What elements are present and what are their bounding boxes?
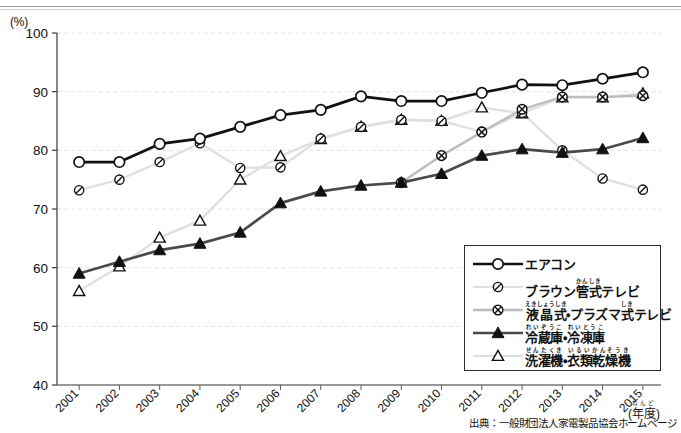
source-note: 出典：一般財団法人家電製品協会ホームページ [469,415,677,430]
x-axis-tick-label: 2007 [294,386,323,415]
x-axis-tick-label: 2006 [254,386,283,415]
legend-marker-open-circle-icon [471,255,525,273]
legend-item[interactable]: 冷蔵庫れいぞうこ・冷凍庫れいとうこ [465,321,660,344]
legend-label: ブラウン管式かんしきテレビ [525,278,639,298]
legend-marker-circle-slash-icon [471,278,525,296]
chart-page: (%) 100908070605040 20012002200320042005… [0,0,681,433]
legend-item[interactable]: 洗濯機せんたくき・衣類乾燥機いるいかんそうき [465,344,660,367]
x-axis-tick-label: 2002 [93,386,122,415]
x-axis-tick-label: 2010 [415,386,444,415]
x-axis-tick-label: 2012 [495,386,524,415]
legend-label: 液晶式えきしょうしき・プラズマ式しきテレビ [525,301,672,321]
x-axis-tick-label: 2009 [375,386,404,415]
legend-item[interactable]: エアコン [465,252,660,275]
y-axis-tick-labels: 100908070605040 [25,26,48,393]
legend-label: 冷蔵庫れいぞうこ・冷凍庫れいとうこ [525,324,605,344]
x-axis-tick-label: 2003 [133,386,162,415]
x-axis-tick-labels: 2001200220032004200520062007200820092010… [52,386,645,415]
chart-legend: エアコンブラウン管式かんしきテレビ液晶式えきしょうしき・プラズマ式しきテレビ冷蔵… [464,245,661,371]
y-axis-tick-label: 100 [25,26,48,41]
y-axis-tick-label: 90 [33,85,48,100]
x-axis-tick-label: 2013 [536,386,565,415]
legend-marker-circle-cross-icon [471,301,525,319]
x-axis-tick-label: 2008 [334,386,363,415]
x-axis-tick-label: 2005 [214,386,243,415]
legend-marker-open-triangle-icon [471,347,525,365]
legend-marker-filled-triangle-icon [471,324,525,342]
legend-label: 洗濯機せんたくき・衣類乾燥機いるいかんそうき [525,347,630,367]
x-axis-tick-label: 2011 [456,386,484,414]
legend-label: エアコン [525,258,576,271]
y-axis-tick-label: 60 [33,261,48,276]
y-axis-tick-label: 50 [33,319,48,334]
legend-item[interactable]: ブラウン管式かんしきテレビ [465,275,660,298]
x-axis-tick-label: 2004 [173,386,202,415]
x-axis-tick-label: 2001 [52,386,81,415]
y-axis-tick-label: 70 [33,202,48,217]
x-axis-tick-label: 2014 [576,386,605,415]
legend-item[interactable]: 液晶式えきしょうしき・プラズマ式しきテレビ [465,298,660,321]
y-axis-tick-label: 40 [33,378,48,393]
y-axis-tick-label: 80 [33,143,48,158]
